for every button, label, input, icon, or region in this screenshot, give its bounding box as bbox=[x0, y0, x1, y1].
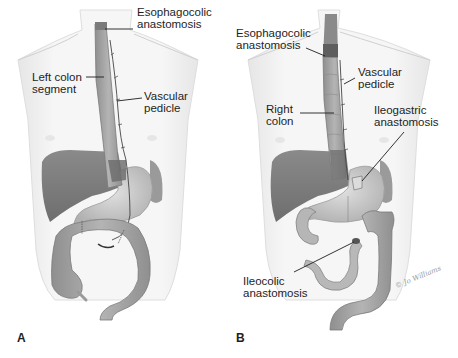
panel-a-label-esophagocolic-anastomosis: Esophagocolic anastomosis bbox=[137, 6, 212, 30]
panel-b-label-esophagocolic-anastomosis: Esophagocolic anastomosis bbox=[236, 27, 311, 51]
panel-a-label-vascular-pedicle: Vascular pedicle bbox=[144, 90, 188, 114]
panel-a-label-left-colon-segment: Left colon segment bbox=[32, 71, 82, 95]
panel-a-letter: A bbox=[17, 331, 26, 345]
colon-interposition-figure: Esophagocolic anastomosis Left colon seg… bbox=[0, 0, 458, 358]
panel-b-label-ileogastric-anastomosis: Ileogastric anastomosis bbox=[374, 104, 439, 128]
panel-b-label-vascular-pedicle: Vascular pedicle bbox=[358, 66, 402, 90]
panel-b-label-ileocolic-anastomosis: Ileocolic anastomosis bbox=[243, 275, 308, 299]
panel-b-label-right-colon: Right colon bbox=[266, 103, 294, 127]
anatomy-illustration bbox=[0, 0, 458, 358]
panel-a-illustration bbox=[18, 10, 198, 320]
panel-b-letter: B bbox=[236, 331, 245, 345]
